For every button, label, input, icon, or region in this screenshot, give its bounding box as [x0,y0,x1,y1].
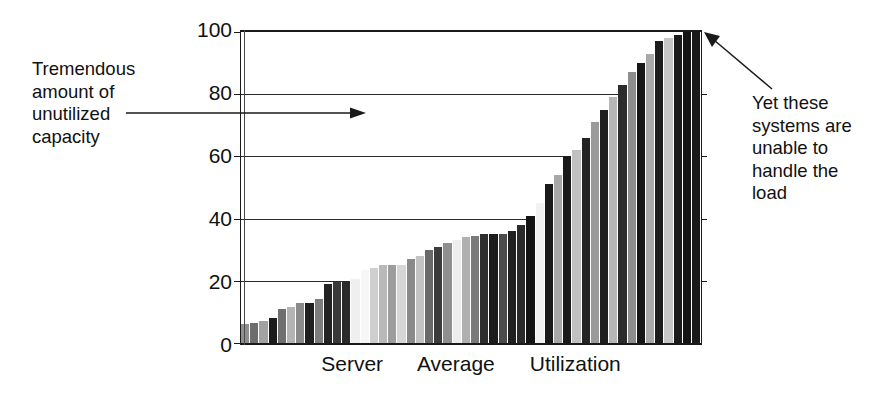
bar-chart-figure: 100 80 60 40 20 0 [0,0,875,399]
bar [683,32,692,343]
bar [278,309,287,343]
bar [379,265,388,343]
right-leader-line [714,40,772,89]
bar [361,270,370,343]
bar [536,203,545,343]
plot-inner [241,32,701,343]
bar [692,32,701,343]
annotation-unable-to-handle-load: Yet these systems are unable to handle t… [752,92,870,205]
right-tick-20 [701,281,707,282]
y-tick-0 [234,343,241,344]
y-tick-60 [234,156,241,157]
bar [480,234,489,343]
bar [241,324,250,343]
bar [250,323,259,343]
bar [664,38,673,343]
y-tick-label-60: 60 [209,144,232,168]
y-tick-label-80: 80 [209,81,232,105]
bar [563,156,572,343]
bar [591,122,600,343]
bar [600,110,609,343]
bar [425,250,434,343]
x-axis-title: Server Average Utilization [240,352,702,376]
bar [526,216,535,344]
bar [471,236,480,343]
bar [646,54,655,343]
y-tick-20 [234,281,241,282]
y-tick-100 [234,32,241,33]
bar [315,299,324,343]
bar [324,284,333,343]
y-tick-label-100: 100 [197,18,232,42]
bar [637,63,646,343]
annotation-unutilized-capacity: Tremendous amount of unutilized capacity [32,58,182,148]
bar [287,307,296,343]
bar [342,281,351,343]
bar [434,247,443,343]
bar [674,35,683,343]
bar [462,237,471,343]
bar [572,150,581,343]
bar [554,175,563,343]
bar [259,321,268,343]
bar [508,231,517,343]
bar [305,303,314,343]
bar [388,265,397,343]
bar [296,303,305,343]
right-tick-40 [701,219,707,220]
plot-area [240,30,702,345]
bar [545,184,554,343]
y-tick-label-0: 0 [220,333,232,357]
bar [582,138,591,343]
bar [628,72,637,343]
bar [416,256,425,343]
bar [269,318,278,343]
bar [609,97,618,343]
y-tick-label-40: 40 [209,207,232,231]
bar [517,225,526,343]
bar [351,279,360,343]
bar [489,234,498,343]
bar [655,41,664,343]
bar [443,243,452,343]
bar [618,85,627,343]
bar [407,259,416,343]
y-axis-spine-inner [244,30,245,345]
right-leader-arrowhead [704,32,720,47]
bar [397,265,406,343]
bar-series [241,32,701,343]
bar [333,282,342,343]
bar [370,268,379,343]
y-tick-label-20: 20 [209,270,232,294]
bar [453,240,462,343]
y-tick-40 [234,219,241,220]
right-tick-80 [701,94,707,95]
bar [499,234,508,343]
y-tick-80 [234,94,241,95]
right-tick-60 [701,156,707,157]
